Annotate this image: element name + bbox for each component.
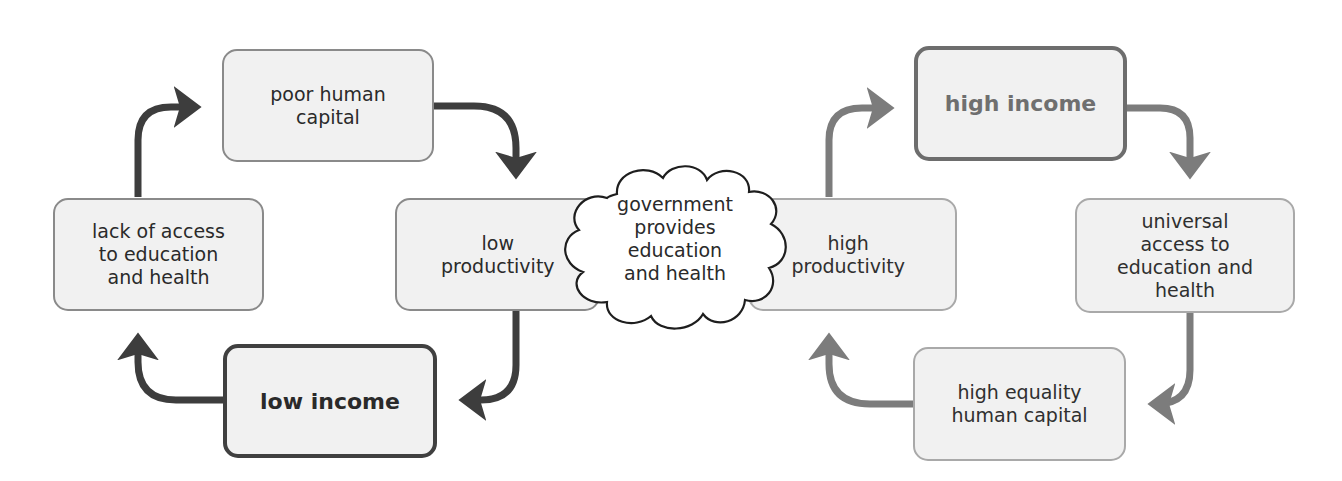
- arrow-low-productivity-to-low-income: [464, 310, 516, 400]
- node-lack-of-access: lack of access to education and health: [53, 198, 264, 311]
- arrow-universal-access-to-high-equality: [1153, 312, 1190, 404]
- arrow-high-equality-to-high-productivity: [829, 338, 913, 404]
- arrow-poor-capital-to-low-productivity: [434, 106, 516, 174]
- node-universal-access: universal access to education and health: [1075, 198, 1295, 313]
- node-poor-human-capital: poor human capital: [222, 49, 434, 162]
- node-label: universal access to education and health: [1117, 210, 1253, 302]
- node-high-income: high income: [914, 46, 1127, 161]
- node-label: high equality human capital: [951, 381, 1087, 427]
- node-high-equality-human-capital: high equality human capital: [913, 347, 1126, 461]
- node-label: lack of access to education and health: [92, 220, 225, 289]
- node-low-income: low income: [223, 344, 437, 458]
- node-label: high income: [945, 92, 1096, 115]
- arrow-low-income-to-lack-access: [138, 338, 223, 400]
- cloud-label: government provides education and health: [580, 193, 770, 285]
- arrow-lack-access-to-poor-capital: [138, 107, 196, 197]
- node-label: low productivity: [441, 232, 555, 278]
- arrow-high-income-to-universal-access: [1126, 108, 1190, 174]
- node-label: low income: [260, 390, 400, 413]
- node-label: poor human capital: [270, 83, 385, 129]
- arrow-high-productivity-to-high-income: [829, 108, 889, 197]
- node-label: high productivity: [791, 232, 905, 278]
